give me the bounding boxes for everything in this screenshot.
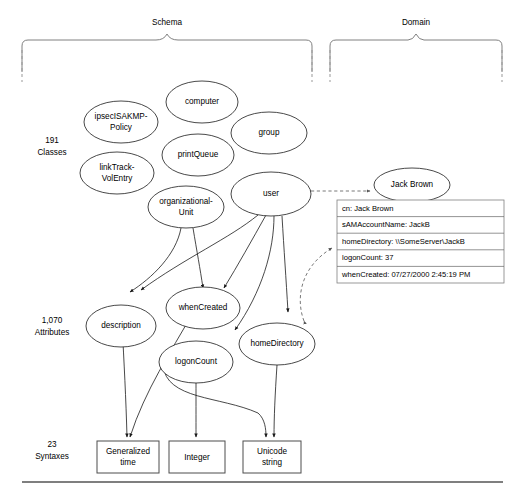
node-label-line1: Integer [184, 453, 210, 462]
row-label-syntaxes: 23 Syntaxes [35, 440, 69, 461]
node-label-line1: group [259, 128, 280, 137]
node-label-line1: description [101, 321, 141, 330]
node-label-line1: Generalized [106, 447, 151, 456]
node-label-line2: Unit [179, 208, 194, 217]
row-label-attributes: 1,070 Attributes [35, 316, 70, 337]
node-label-line1: whenCreated [178, 303, 228, 312]
node-label-line2: Policy [110, 123, 133, 132]
node-label-line1: user [263, 189, 279, 198]
node-whencreated[interactable]: whenCreated [166, 287, 240, 329]
node-logoncount[interactable]: logonCount [159, 341, 233, 383]
edge-user-homedirectory [282, 216, 288, 312]
edge-homedirectory-unicodestring [274, 365, 277, 437]
table-row-logoncount: logonCount: 37 [342, 253, 394, 262]
node-integer[interactable]: Integer [169, 441, 225, 473]
brace-schema: Schema [22, 18, 312, 82]
node-label-line1: Jack Brown [391, 180, 434, 189]
row-label-classes-name: Classes [37, 148, 66, 157]
table-row-cn: cn: Jack Brown [342, 204, 394, 213]
node-label-line2: VolEntry [102, 174, 133, 183]
node-user[interactable]: user [231, 172, 311, 216]
node-generalized-time[interactable]: Generalized time [97, 441, 159, 473]
brace-label-schema: Schema [152, 18, 182, 27]
row-label-classes: 191 Classes [37, 136, 66, 157]
node-label-line1: printQueue [178, 150, 219, 159]
table-row-samaccountname: sAMAccountName: JackB [342, 220, 430, 229]
edges-layer [122, 191, 370, 437]
row-label-attributes-count: 1,070 [42, 316, 63, 325]
node-computer[interactable]: computer [166, 81, 238, 123]
node-label-line1: logonCount [175, 357, 218, 366]
row-label-classes-count: 191 [45, 136, 59, 145]
node-ipsecisakmp-policy[interactable]: ipsecISAKMP- Policy [84, 101, 158, 143]
row-label-syntaxes-count: 23 [47, 440, 57, 449]
edge-organizationalunit-description [130, 228, 181, 292]
node-group[interactable]: group [231, 112, 307, 154]
table-row-whencreated: whenCreated: 07/27/2000 2:45:19 PM [341, 270, 470, 279]
node-label-line1: Unicode [257, 447, 287, 456]
row-label-attributes-name: Attributes [35, 328, 70, 337]
row-label-syntaxes-name: Syntaxes [35, 452, 69, 461]
brace-label-domain: Domain [402, 18, 431, 27]
edge-user-logoncount [235, 216, 274, 330]
edge-homedirectory-tablerow [300, 248, 332, 321]
edge-organizationalunit-whencreated [193, 228, 203, 288]
node-label-line1: computer [185, 97, 219, 106]
node-linktrack-volentry[interactable]: linkTrack- VolEntry [80, 152, 154, 194]
node-description[interactable]: description [86, 305, 156, 347]
schema-diagram-figure: Schema Domain 191 Classes 1,070 Attribut… [0, 0, 525, 492]
node-label-line1: ipsecISAKMP- [95, 112, 148, 121]
node-label-line1: organizational- [159, 197, 213, 206]
node-jack-brown[interactable]: Jack Brown [374, 168, 450, 202]
node-label-line2: time [120, 458, 136, 467]
node-label-line1: linkTrack- [99, 163, 134, 172]
node-printqueue[interactable]: printQueue [162, 134, 234, 176]
node-unicode-string[interactable]: Unicode string [243, 441, 301, 473]
node-label-line2: string [262, 458, 282, 467]
table-row-homedirectory: homeDirectory: \\SomeServer\JackB [342, 237, 465, 246]
node-organizational-unit[interactable]: organizational- Unit [148, 186, 224, 228]
node-homedirectory[interactable]: homeDirectory [239, 323, 315, 365]
jack-brown-attributes-table: cn: Jack Brown sAMAccountName: JackB hom… [337, 200, 504, 283]
edge-user-whencreated [224, 215, 266, 288]
node-label-line1: homeDirectory [250, 339, 304, 348]
brace-domain: Domain [330, 18, 502, 82]
